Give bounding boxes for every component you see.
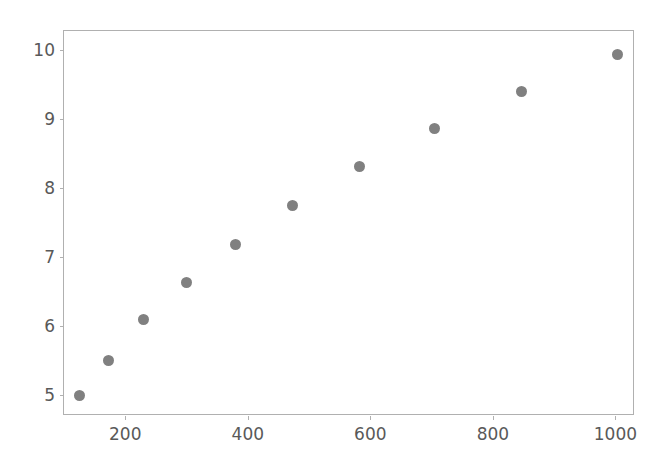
y-tick-label: 8	[44, 178, 55, 198]
x-tick-label: 200	[109, 424, 141, 444]
scatter-point	[181, 277, 192, 288]
plot-axes: 5678910 2004006008001000	[63, 30, 634, 415]
y-tick-label: 9	[44, 109, 55, 129]
y-tick-label: 10	[33, 40, 55, 60]
x-tick-mark	[125, 416, 126, 420]
scatter-point	[74, 390, 85, 401]
x-tick-label: 400	[232, 424, 264, 444]
x-tick-label: 800	[477, 424, 509, 444]
scatter-point	[287, 200, 298, 211]
scatter-point	[103, 355, 114, 366]
scatter-point	[429, 123, 440, 134]
y-tick-label: 7	[44, 247, 55, 267]
scatter-point	[138, 314, 149, 325]
y-tick-label: 5	[44, 385, 55, 405]
scatter-point	[516, 86, 527, 97]
x-tick-mark	[248, 416, 249, 420]
x-tick-mark	[615, 416, 616, 420]
x-tick-mark	[493, 416, 494, 420]
x-tick-label: 1000	[594, 424, 637, 444]
x-tick-mark	[370, 416, 371, 420]
scatter-point	[612, 49, 623, 60]
x-tick-label: 600	[354, 424, 386, 444]
scatter-point	[230, 239, 241, 250]
y-tick-label: 6	[44, 316, 55, 336]
scatter-point	[354, 161, 365, 172]
scatter-points-layer	[64, 31, 633, 414]
figure-canvas: 5678910 2004006008001000	[0, 0, 662, 467]
